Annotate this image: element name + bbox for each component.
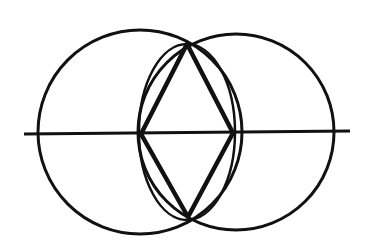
horizontal-axis-line bbox=[24, 131, 350, 134]
geometric-diagram bbox=[0, 0, 367, 246]
